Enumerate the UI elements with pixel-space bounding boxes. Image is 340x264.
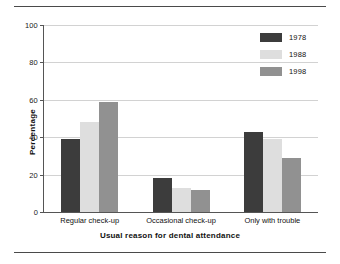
y-axis-line (43, 25, 44, 213)
chart-figure: Percentage 020406080100 Regular check-up… (0, 0, 340, 264)
legend-item: 1978 (260, 30, 307, 44)
x-axis-title: Usual reason for dental attendance (0, 231, 340, 240)
y-tick-mark (40, 175, 44, 176)
y-tick-label: 40 (29, 133, 38, 142)
legend-swatch (260, 67, 282, 76)
legend-swatch (260, 50, 282, 59)
top-rule (14, 6, 326, 7)
bar-group (153, 25, 210, 212)
y-tick-mark (40, 100, 44, 101)
legend-swatch (260, 33, 282, 42)
x-axis-line (43, 212, 318, 213)
y-tick-label: 20 (29, 170, 38, 179)
legend-item: 1988 (260, 47, 307, 61)
legend-label: 1998 (289, 67, 307, 76)
y-tick-label: 100 (25, 21, 38, 30)
y-tick-mark (40, 212, 44, 213)
x-tick-label: Regular check-up (60, 216, 119, 225)
legend-label: 1978 (289, 33, 307, 42)
y-tick-label: 60 (29, 95, 38, 104)
bar (99, 102, 118, 212)
bottom-rule (14, 252, 326, 253)
x-tick-label: Occasional check-up (146, 216, 216, 225)
y-tick-mark (40, 137, 44, 138)
bar (172, 188, 191, 212)
bar (244, 132, 263, 212)
bar (263, 139, 282, 212)
legend-label: 1988 (289, 50, 307, 59)
y-tick-label: 0 (34, 208, 38, 217)
y-tick-mark (40, 25, 44, 26)
bar (80, 122, 99, 212)
legend: 197819881998 (260, 30, 307, 81)
legend-item: 1998 (260, 64, 307, 78)
y-tick-label: 80 (29, 58, 38, 67)
x-tick-label: Only with trouble (244, 216, 300, 225)
bar (153, 178, 172, 212)
bar-group (61, 25, 118, 212)
bar (61, 139, 80, 212)
bar (191, 190, 210, 212)
y-tick-mark (40, 62, 44, 63)
bar (282, 158, 301, 212)
